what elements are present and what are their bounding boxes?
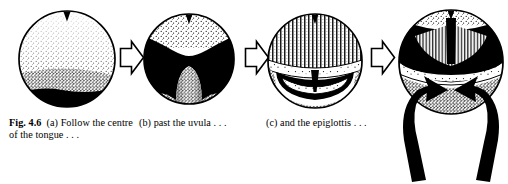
- figure-illustration: [0, 0, 508, 184]
- step-arrow-a-to-b: [121, 42, 144, 74]
- step-arrow-c-to-d: [372, 42, 395, 74]
- figure-4-6: Fig. 4.6 (a) Follow the centre of the to…: [0, 0, 508, 184]
- panel-b-uvula-view: [144, 14, 234, 104]
- step-arrow-b-to-c: [246, 42, 269, 74]
- panel-d-vocal-cords-view: [399, 10, 503, 182]
- panel-a-tongue-view: [19, 11, 115, 108]
- panel-c-epiglottis-view: [268, 14, 362, 108]
